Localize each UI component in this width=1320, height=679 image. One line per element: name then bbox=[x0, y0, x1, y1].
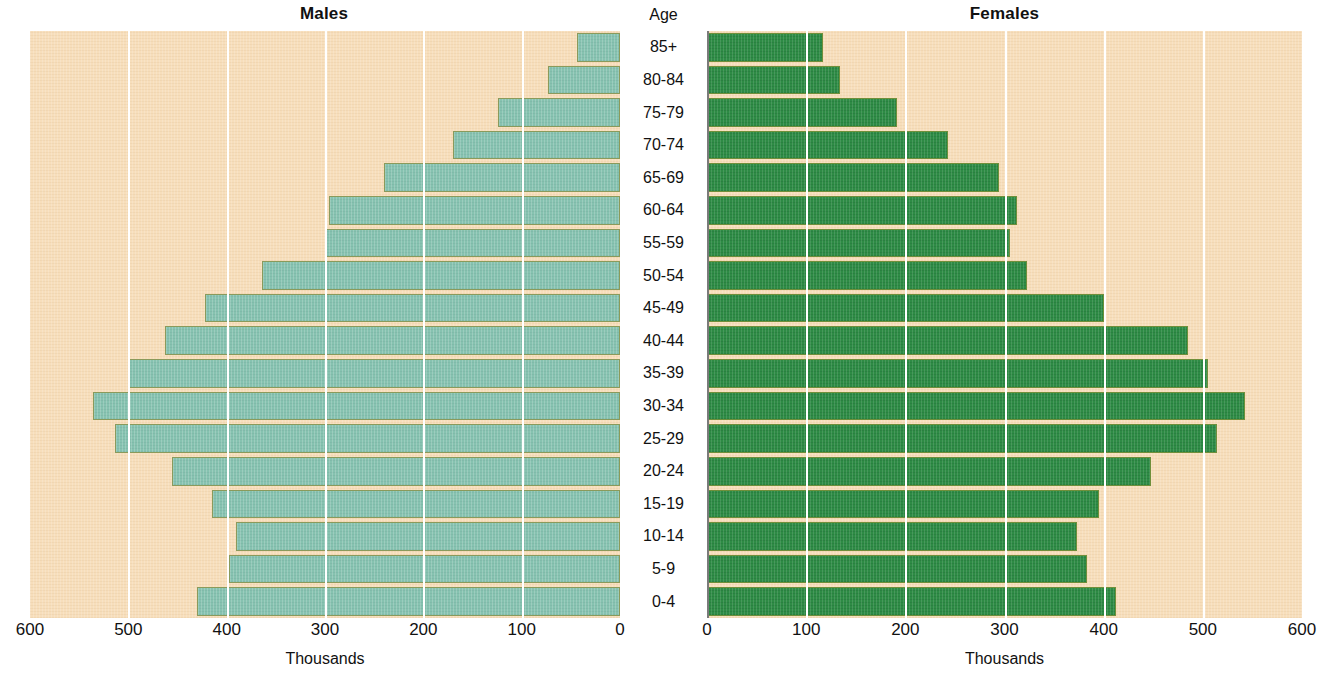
gridline-200 bbox=[423, 31, 425, 618]
male-bar-15-19 bbox=[212, 490, 620, 519]
male-bar-50-54 bbox=[262, 261, 620, 290]
gridline-200 bbox=[905, 31, 907, 618]
females-plot-area bbox=[707, 31, 1302, 618]
female-bar-50-54 bbox=[707, 261, 1027, 290]
male-bar-85+ bbox=[577, 33, 620, 62]
male-bar-35-39 bbox=[128, 359, 620, 388]
age-label-75-79: 75-79 bbox=[620, 96, 707, 129]
male-bar-65-69 bbox=[384, 163, 620, 192]
females-panel-title: Females bbox=[707, 4, 1302, 24]
age-label-50-54: 50-54 bbox=[620, 259, 707, 292]
female-bar-5-9 bbox=[707, 555, 1087, 584]
gridline-400 bbox=[1104, 31, 1106, 618]
female-bar-15-19 bbox=[707, 490, 1099, 519]
age-label-80-84: 80-84 bbox=[620, 64, 707, 97]
male-bar-80-84 bbox=[548, 66, 620, 95]
axis-tick-300: 300 bbox=[990, 620, 1018, 640]
female-bar-0-4 bbox=[707, 587, 1116, 616]
age-label-70-74: 70-74 bbox=[620, 129, 707, 162]
males-panel-title: Males bbox=[28, 4, 620, 24]
gridline-400 bbox=[227, 31, 229, 618]
axis-tick-200: 200 bbox=[409, 620, 437, 640]
female-bar-75-79 bbox=[707, 98, 897, 127]
male-bar-30-34 bbox=[93, 392, 620, 421]
male-bar-45-49 bbox=[205, 294, 620, 323]
age-label-5-9: 5-9 bbox=[620, 553, 707, 586]
males-plot-area bbox=[30, 31, 620, 618]
male-bar-40-44 bbox=[165, 326, 620, 355]
female-bar-40-44 bbox=[707, 326, 1188, 355]
males-axis-caption: Thousands bbox=[30, 650, 620, 668]
gridline-300 bbox=[1005, 31, 1007, 618]
age-label-25-29: 25-29 bbox=[620, 422, 707, 455]
age-label-45-49: 45-49 bbox=[620, 292, 707, 325]
axis-tick-100: 100 bbox=[507, 620, 535, 640]
age-label-35-39: 35-39 bbox=[620, 357, 707, 390]
female-bar-70-74 bbox=[707, 131, 948, 160]
age-label-60-64: 60-64 bbox=[620, 194, 707, 227]
female-bar-25-29 bbox=[707, 424, 1217, 453]
gridline-300 bbox=[325, 31, 327, 618]
male-bar-70-74 bbox=[453, 131, 620, 160]
female-bar-65-69 bbox=[707, 163, 999, 192]
age-labels-column: 85+80-8475-7970-7465-6960-6455-5950-5445… bbox=[620, 31, 707, 618]
axis-tick-400: 400 bbox=[1089, 620, 1117, 640]
axis-tick-0: 0 bbox=[702, 620, 711, 640]
age-column-title: Age bbox=[620, 6, 707, 24]
axis-tick-200: 200 bbox=[891, 620, 919, 640]
female-bar-30-34 bbox=[707, 392, 1245, 421]
population-pyramid-chart: Males Age Females 85+80-8475-7970-7465-6… bbox=[0, 0, 1320, 679]
age-label-15-19: 15-19 bbox=[620, 488, 707, 521]
female-bar-60-64 bbox=[707, 196, 1017, 225]
males-x-axis: 6005004003002001000 bbox=[30, 620, 620, 646]
age-label-0-4: 0-4 bbox=[620, 585, 707, 618]
gridline-500 bbox=[1203, 31, 1205, 618]
female-bar-80-84 bbox=[707, 66, 840, 95]
female-bar-20-24 bbox=[707, 457, 1151, 486]
male-bar-0-4 bbox=[197, 587, 620, 616]
axis-tick-500: 500 bbox=[114, 620, 142, 640]
gridline-100 bbox=[806, 31, 808, 618]
age-label-65-69: 65-69 bbox=[620, 161, 707, 194]
male-bar-75-79 bbox=[498, 98, 620, 127]
axis-tick-500: 500 bbox=[1189, 620, 1217, 640]
axis-tick-100: 100 bbox=[792, 620, 820, 640]
gridline-100 bbox=[522, 31, 524, 618]
axis-tick-0: 0 bbox=[615, 620, 624, 640]
female-bar-55-59 bbox=[707, 229, 1010, 258]
axis-tick-400: 400 bbox=[212, 620, 240, 640]
age-label-85+: 85+ bbox=[620, 31, 707, 64]
gridline-500 bbox=[128, 31, 130, 618]
male-bar-25-29 bbox=[115, 424, 620, 453]
axis-tick-600: 600 bbox=[1288, 620, 1316, 640]
male-bar-60-64 bbox=[329, 196, 620, 225]
age-label-20-24: 20-24 bbox=[620, 455, 707, 488]
male-bar-55-59 bbox=[325, 229, 620, 258]
age-label-55-59: 55-59 bbox=[620, 227, 707, 260]
age-label-30-34: 30-34 bbox=[620, 390, 707, 423]
age-label-40-44: 40-44 bbox=[620, 324, 707, 357]
age-label-10-14: 10-14 bbox=[620, 520, 707, 553]
axis-tick-600: 600 bbox=[16, 620, 44, 640]
axis-tick-300: 300 bbox=[311, 620, 339, 640]
male-bar-20-24 bbox=[172, 457, 620, 486]
females-x-axis: 0100200300400500600 bbox=[707, 620, 1302, 646]
female-bar-10-14 bbox=[707, 522, 1077, 551]
male-bar-10-14 bbox=[236, 522, 620, 551]
female-bar-35-39 bbox=[707, 359, 1208, 388]
females-axis-caption: Thousands bbox=[707, 650, 1302, 668]
